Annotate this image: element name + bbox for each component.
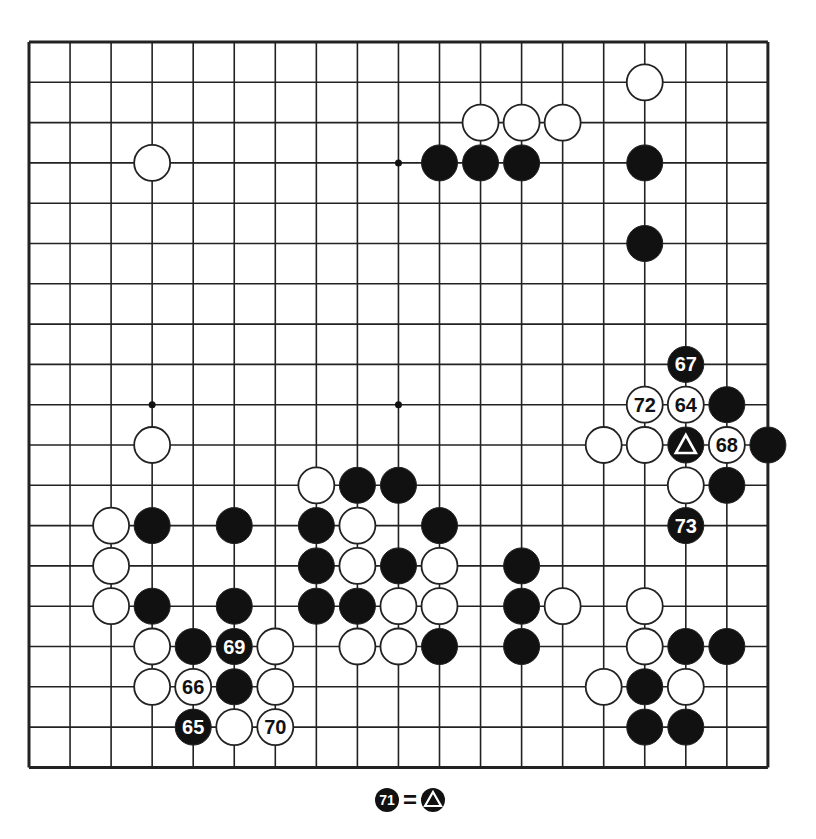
black-stone-shape	[298, 548, 334, 584]
white-stone[interactable]	[134, 145, 170, 181]
white-stone-move-66[interactable]: 66	[175, 669, 211, 705]
black-stone-marked[interactable]	[668, 427, 704, 463]
black-stone[interactable]	[504, 145, 540, 181]
white-stone[interactable]	[257, 629, 293, 665]
black-stone[interactable]	[298, 548, 334, 584]
black-stone[interactable]	[668, 629, 704, 665]
black-stone-shape	[668, 629, 704, 665]
white-stone[interactable]	[93, 508, 129, 544]
black-stone[interactable]	[709, 387, 745, 423]
white-stone[interactable]	[380, 629, 416, 665]
black-stone-move-67[interactable]: 67	[668, 346, 704, 382]
black-stone-shape	[627, 145, 663, 181]
black-stone-move-65[interactable]: 65	[175, 709, 211, 745]
caption-equals-sign: =	[403, 786, 417, 813]
white-stone[interactable]	[504, 105, 540, 141]
white-stone-move-64[interactable]: 64	[668, 387, 704, 423]
white-stone-shape	[627, 629, 663, 665]
white-stone-move-68[interactable]: 68	[709, 427, 745, 463]
white-stone[interactable]	[298, 467, 334, 503]
black-stone-shape	[504, 548, 540, 584]
black-stone[interactable]	[627, 226, 663, 262]
black-stone-shape	[463, 145, 499, 181]
black-stone-shape	[134, 508, 170, 544]
white-stone[interactable]	[134, 629, 170, 665]
black-stone-move-73[interactable]: 73	[668, 508, 704, 544]
black-stone[interactable]	[380, 467, 416, 503]
black-stone[interactable]	[298, 508, 334, 544]
white-stone-shape	[339, 629, 375, 665]
black-stone[interactable]	[339, 588, 375, 624]
caption-triangle-stone	[421, 788, 445, 812]
black-stone[interactable]	[463, 145, 499, 181]
black-stone[interactable]	[750, 427, 786, 463]
black-stone[interactable]	[504, 548, 540, 584]
black-stone[interactable]	[339, 467, 375, 503]
black-stone-shape	[709, 387, 745, 423]
move-number: 68	[716, 434, 738, 456]
white-stone[interactable]	[422, 588, 458, 624]
black-stone[interactable]	[627, 709, 663, 745]
black-stone[interactable]	[422, 629, 458, 665]
white-stone[interactable]	[627, 629, 663, 665]
white-stone[interactable]	[668, 467, 704, 503]
white-stone-move-70[interactable]: 70	[257, 709, 293, 745]
move-number: 70	[264, 716, 286, 738]
white-stone-shape	[134, 427, 170, 463]
move-number: 72	[634, 394, 656, 416]
white-stone[interactable]	[545, 105, 581, 141]
black-stone[interactable]	[216, 508, 252, 544]
black-stone[interactable]	[668, 709, 704, 745]
white-stone[interactable]	[545, 588, 581, 624]
black-stone-shape	[298, 508, 334, 544]
white-stone[interactable]	[627, 427, 663, 463]
white-stone[interactable]	[134, 669, 170, 705]
black-stone[interactable]	[298, 588, 334, 624]
white-stone[interactable]	[463, 105, 499, 141]
white-stone-shape	[93, 588, 129, 624]
black-stone-move-69[interactable]: 69	[216, 629, 252, 665]
black-stone[interactable]	[627, 669, 663, 705]
black-stone-shape	[298, 588, 334, 624]
black-stone[interactable]	[216, 669, 252, 705]
white-stone[interactable]	[216, 709, 252, 745]
white-stone[interactable]	[257, 669, 293, 705]
white-stone[interactable]	[93, 548, 129, 584]
diagram-caption: 71 =	[0, 782, 816, 818]
white-stone[interactable]	[380, 588, 416, 624]
black-stone[interactable]	[134, 588, 170, 624]
white-stone[interactable]	[586, 427, 622, 463]
white-stone-move-72[interactable]: 72	[627, 387, 663, 423]
black-stone[interactable]	[504, 629, 540, 665]
white-stone-shape	[339, 508, 375, 544]
black-stone[interactable]	[216, 588, 252, 624]
white-stone[interactable]	[586, 669, 622, 705]
white-stone-shape	[422, 588, 458, 624]
black-stone[interactable]	[627, 145, 663, 181]
white-stone[interactable]	[422, 548, 458, 584]
white-stone-shape	[134, 669, 170, 705]
black-stone-shape	[216, 508, 252, 544]
black-stone[interactable]	[504, 588, 540, 624]
black-stone-shape	[504, 629, 540, 665]
white-stone-shape	[93, 548, 129, 584]
black-stone[interactable]	[422, 508, 458, 544]
black-stone[interactable]	[380, 548, 416, 584]
white-stone[interactable]	[627, 64, 663, 100]
black-stone[interactable]	[709, 467, 745, 503]
black-stone-shape	[422, 629, 458, 665]
white-stone[interactable]	[339, 548, 375, 584]
white-stone[interactable]	[339, 508, 375, 544]
black-stone[interactable]	[175, 629, 211, 665]
white-stone[interactable]	[93, 588, 129, 624]
move-number: 64	[675, 394, 698, 416]
white-stone[interactable]	[339, 629, 375, 665]
black-stone[interactable]	[422, 145, 458, 181]
black-stone[interactable]	[709, 629, 745, 665]
black-stone-shape	[216, 588, 252, 624]
white-stone[interactable]	[668, 669, 704, 705]
white-stone-shape	[257, 629, 293, 665]
white-stone[interactable]	[134, 427, 170, 463]
white-stone[interactable]	[627, 588, 663, 624]
black-stone[interactable]	[134, 508, 170, 544]
